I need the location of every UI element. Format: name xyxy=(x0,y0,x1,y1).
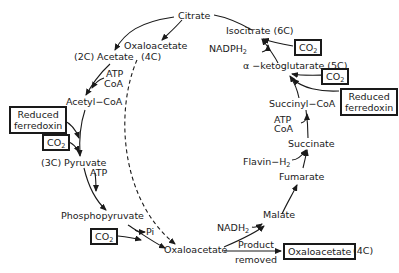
node-succinyl-coa: Succinyl−CoA xyxy=(269,98,335,109)
node-oxaloacetate-bottom: Oxaloacetate xyxy=(164,244,227,255)
node-phosphopyruvate: Phosphopyruvate xyxy=(61,210,144,221)
node-succinate: Succinate xyxy=(288,138,335,149)
cofactor-nadh2: NADH2 xyxy=(217,222,249,233)
node-oxaloacetate-top: Oxaloacetate xyxy=(124,40,187,51)
node-oxaloacetate-top-carbons: (4C) xyxy=(141,51,161,62)
box-co2-pyruvate: CO2 xyxy=(42,134,70,151)
node-acetyl-coa: Acetyl−CoA xyxy=(66,96,122,107)
box-co2-alpha-ketoglutarate: CO2 xyxy=(321,68,349,85)
box-product-oxaloacetate: Oxaloacetate xyxy=(283,243,356,260)
cofactor-nadph2: NADPH2 xyxy=(209,43,247,54)
node-citrate: Citrate xyxy=(178,10,210,21)
box-co2-isocitrate: CO2 xyxy=(294,39,322,56)
node-fumarate: Fumarate xyxy=(279,171,324,182)
cofactor-coa-left: CoA xyxy=(104,78,123,89)
label-removed: removed xyxy=(235,254,277,265)
box-reduced-ferredoxin-right: Reducedferredoxin xyxy=(340,88,398,116)
cofactor-flavin-h2: Flavin−H2 xyxy=(243,156,290,167)
box-co2-phosphopyruvate: CO2 xyxy=(90,228,118,245)
cofactor-coa-right: CoA xyxy=(274,123,293,134)
reductive-tca-cycle-diagram: Citrate Isocitrate (6C) Oxaloacetate (4C… xyxy=(0,0,399,273)
node-acetate: (2C) Acetate xyxy=(74,51,134,62)
node-malate: Malate xyxy=(263,209,295,220)
label-product-carbons: (4C) xyxy=(353,245,373,256)
cofactor-atp-pyruvate: ATP xyxy=(90,167,107,178)
cofactor-pi: Pi xyxy=(146,226,154,237)
box-reduced-ferredoxin-left: Reducedferredoxin xyxy=(9,106,67,134)
label-product: Product xyxy=(238,239,274,250)
node-isocitrate: Isocitrate (6C) xyxy=(226,25,294,36)
